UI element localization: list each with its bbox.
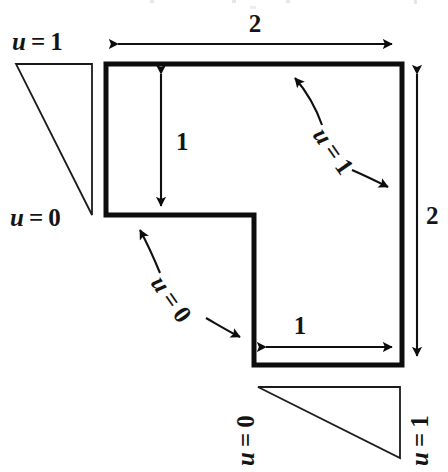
dimension-top-label: 2: [249, 10, 262, 37]
dimension-right-label: 2: [426, 202, 439, 229]
left-profile-triangle: [16, 64, 92, 215]
left-profile-top-label: u=1: [12, 28, 63, 55]
cropped-caption-remnant: [150, 0, 417, 9]
l-shape-domain-outline: [106, 64, 402, 365]
dimension-top: 2: [118, 10, 392, 44]
callout-u0-leader-to-notch-top: [140, 230, 160, 273]
bottom-profile-right-label: u=1: [406, 415, 433, 466]
callout-u0-leader-to-notch-side: [206, 318, 240, 337]
left-profile-triangle-group: u=1 u=0 u = 1 u = 0: [0, 0, 92, 231]
dimension-inner-horizontal-label: 1: [294, 312, 307, 339]
dimension-inner-vertical-label: 1: [176, 128, 189, 155]
figure-container: 2 u=1 u=0 u = 1 u = 0 1 1: [0, 0, 448, 472]
left-profile-bottom-label: u=0: [10, 204, 61, 231]
dimension-right: 2: [417, 74, 439, 356]
l-shaped-domain-diagram: 2 u=1 u=0 u = 1 u = 0 1 1: [0, 0, 448, 472]
callout-u0-label: u=0: [146, 270, 197, 327]
bottom-profile-left-label: u=0: [232, 415, 259, 466]
bottom-profile-triangle: [258, 387, 400, 458]
